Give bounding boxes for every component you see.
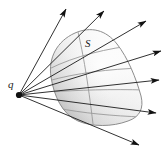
surface-patch-s bbox=[50, 30, 142, 126]
geometry-figure: q S bbox=[0, 0, 168, 153]
figure-canvas bbox=[0, 0, 168, 153]
surface-label: S bbox=[85, 38, 91, 49]
source-point-dot bbox=[16, 92, 22, 98]
source-point-label: q bbox=[8, 79, 14, 90]
